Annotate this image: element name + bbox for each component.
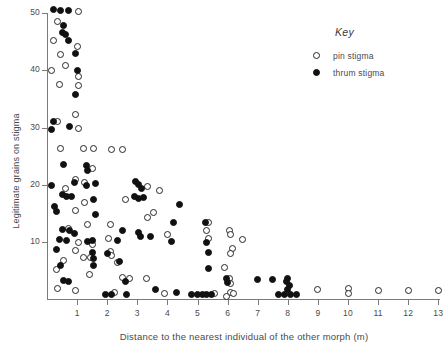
- data-point-pin: [80, 145, 87, 152]
- data-point-thrum: [83, 182, 90, 189]
- filled-circle-icon: [313, 69, 320, 76]
- x-tick-label: 4: [157, 308, 177, 318]
- data-point-pin: [86, 271, 93, 278]
- data-point-pin: [221, 264, 228, 271]
- x-tick-mark: [167, 300, 168, 305]
- x-tick-label: 1: [67, 308, 87, 318]
- data-point-thrum: [123, 291, 130, 298]
- x-tick-label: 2: [97, 308, 117, 318]
- data-point-pin: [108, 146, 115, 153]
- legend: Key pin stigma thrum stigma: [305, 26, 425, 81]
- data-point-thrum: [170, 219, 177, 226]
- data-point-thrum: [90, 262, 97, 269]
- data-point-pin: [164, 231, 171, 238]
- legend-label-pin: pin stigma: [333, 51, 374, 61]
- data-point-pin: [107, 221, 114, 228]
- data-point-pin: [375, 287, 382, 294]
- data-point-pin: [230, 290, 237, 297]
- data-point-thrum: [53, 246, 60, 253]
- data-point-thrum: [48, 126, 55, 133]
- data-point-thrum: [152, 286, 159, 293]
- data-point-thrum: [65, 37, 72, 44]
- open-circle-icon: [313, 52, 320, 59]
- data-point-thrum: [108, 291, 115, 298]
- data-point-pin: [62, 62, 69, 69]
- x-axis-label: Distance to the nearest individual of th…: [48, 331, 440, 342]
- x-tick-mark: [198, 300, 199, 305]
- data-point-thrum: [53, 208, 60, 215]
- data-point-thrum: [254, 276, 261, 283]
- x-tick-label: 8: [278, 308, 298, 318]
- y-tick-label: 30: [18, 122, 40, 132]
- data-point-thrum: [119, 227, 126, 234]
- data-point-pin: [80, 254, 87, 261]
- data-point-pin: [54, 285, 61, 292]
- data-point-thrum: [66, 123, 73, 130]
- data-point-thrum: [50, 6, 57, 13]
- data-point-pin: [239, 236, 246, 243]
- y-tick-mark: [42, 242, 47, 243]
- data-point-pin: [156, 187, 163, 194]
- data-point-thrum: [293, 291, 300, 298]
- y-axis-line: [47, 13, 48, 300]
- data-point-pin: [74, 43, 81, 50]
- data-point-pin: [119, 146, 126, 153]
- data-point-pin: [161, 290, 168, 297]
- x-tick-label: 6: [218, 308, 238, 318]
- legend-entry-thrum: thrum stigma: [305, 64, 425, 81]
- data-point-thrum: [56, 236, 63, 243]
- data-point-thrum: [90, 196, 97, 203]
- data-point-thrum: [208, 291, 215, 298]
- data-point-thrum: [205, 249, 212, 256]
- data-point-pin: [72, 287, 79, 294]
- x-tick-label: 9: [308, 308, 328, 318]
- y-tick-mark: [42, 70, 47, 71]
- data-point-thrum: [65, 278, 72, 285]
- data-point-thrum: [71, 230, 78, 237]
- y-tick-label: 40: [18, 64, 40, 74]
- y-tick-label: 50: [18, 7, 40, 17]
- data-point-pin: [314, 286, 321, 293]
- x-tick-mark: [107, 300, 108, 305]
- data-point-thrum: [147, 233, 154, 240]
- data-point-thrum: [104, 250, 111, 257]
- data-point-pin: [75, 239, 82, 246]
- data-point-pin: [81, 199, 88, 206]
- data-point-pin: [227, 250, 234, 257]
- top-cropped-text: [95, 0, 355, 6]
- data-point-pin: [72, 111, 79, 118]
- data-point-pin: [50, 37, 57, 44]
- data-point-thrum: [60, 161, 67, 168]
- data-point-pin: [75, 82, 82, 89]
- data-point-thrum: [92, 180, 99, 187]
- data-point-thrum: [205, 265, 212, 272]
- data-point-pin: [75, 8, 82, 15]
- x-tick-mark: [137, 300, 138, 305]
- data-point-thrum: [68, 193, 75, 200]
- data-point-pin: [144, 183, 151, 190]
- data-point-thrum: [269, 276, 276, 283]
- data-point-thrum: [72, 50, 79, 57]
- data-point-pin: [72, 247, 79, 254]
- x-tick-label: 5: [188, 308, 208, 318]
- data-point-pin: [57, 51, 64, 58]
- x-tick-mark: [438, 300, 439, 305]
- x-axis-line: [47, 299, 440, 300]
- x-tick-label: 12: [398, 308, 418, 318]
- legend-title: Key: [335, 26, 425, 38]
- data-point-pin: [57, 145, 64, 152]
- legend-label-thrum: thrum stigma: [333, 68, 385, 78]
- data-point-thrum: [203, 239, 210, 246]
- x-tick-mark: [378, 300, 379, 305]
- data-point-thrum: [48, 182, 55, 189]
- y-tick-label: 20: [18, 179, 40, 189]
- x-tick-mark: [258, 300, 259, 305]
- x-tick-mark: [228, 300, 229, 305]
- x-tick-label: 11: [368, 308, 388, 318]
- data-point-thrum: [89, 237, 96, 244]
- data-point-pin: [90, 145, 97, 152]
- x-tick-mark: [77, 300, 78, 305]
- data-point-thrum: [138, 185, 145, 192]
- y-axis-label: Legitimate grains on stigma: [11, 91, 21, 251]
- data-point-pin: [144, 214, 151, 221]
